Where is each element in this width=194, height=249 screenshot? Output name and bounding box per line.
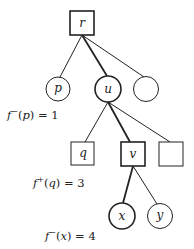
annotation-f-minus-p: f−(p) = 1 [6,107,59,122]
edge-v-y [133,166,157,204]
node-empty-square [159,142,183,166]
node-v-label: v [130,147,137,161]
edge-r-u [82,35,107,76]
edge-u-empty-square [108,102,170,142]
node-x-label: x [119,209,126,223]
node-p-label: p [54,81,62,95]
edge-u-v [108,102,130,142]
edge-u-q [85,102,108,142]
node-y-label: y [156,208,164,222]
edge-v-x [123,166,133,203]
node-q-label: q [79,146,87,160]
annotation-f-minus-x: f−(x) = 4 [44,228,96,243]
edge-r-empty-circle [82,35,144,77]
game-tree-diagram: r p u q v x y f−(p) = 1 f+(q) = 3 f−(x) … [0,0,194,249]
node-empty-circle [134,77,159,102]
node-u-label: u [104,82,112,96]
annotation-f-plus-q: f+(q) = 3 [32,175,85,190]
edge-r-p [60,35,82,77]
